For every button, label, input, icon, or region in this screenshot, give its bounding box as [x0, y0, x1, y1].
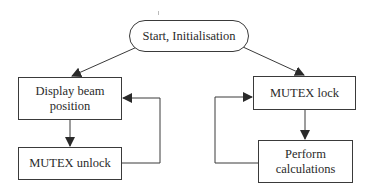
node-mutex-unlock: MUTEX unlock — [18, 147, 122, 180]
edge-start-to-lock — [243, 47, 304, 75]
node-mutex-lock: MUTEX lock — [253, 76, 356, 110]
flowchart-diagram: Start, Initialisation Display beam posit… — [0, 0, 372, 192]
node-label: Start, Initialisation — [142, 29, 235, 44]
node-display-beam-position: Display beam position — [18, 77, 122, 120]
node-perform-calculations: Perform calculations — [258, 140, 353, 183]
edge-unlock-to-display-loop — [122, 98, 160, 163]
edge-start-to-display — [72, 47, 137, 76]
node-label-line-2: position — [50, 99, 90, 114]
node-label-line-1: Perform — [285, 147, 326, 162]
node-start-initialisation: Start, Initialisation — [129, 20, 249, 52]
node-label: MUTEX lock — [270, 86, 339, 101]
node-label: MUTEX unlock — [29, 156, 111, 171]
node-label-line-2: calculations — [276, 162, 336, 177]
node-label-line-1: Display beam — [35, 84, 104, 99]
edge-perform-to-lock-loop — [215, 97, 258, 163]
